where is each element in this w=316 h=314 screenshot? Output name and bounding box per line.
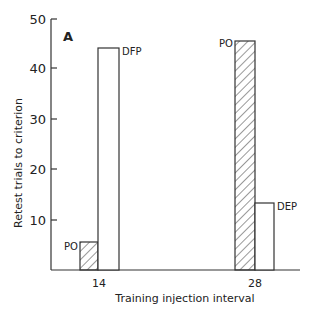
bar-po-28	[235, 41, 255, 270]
y-tick-label: 20	[29, 162, 46, 177]
bar-dfp-14	[98, 48, 119, 270]
y-ticks	[51, 19, 57, 220]
bar-po-14	[80, 242, 98, 270]
panel-label: A	[63, 29, 73, 44]
bar-label-po: PO	[64, 241, 78, 252]
y-tick-label: 50	[29, 12, 46, 27]
bar-label-dfp: DFP	[122, 46, 141, 57]
x-axis-label: Training injection interval	[114, 292, 254, 305]
x-tick-label: 28	[248, 277, 262, 290]
y-tick-label: 10	[29, 213, 46, 228]
bar-label-po: PO	[219, 38, 233, 49]
bar-dep-28	[255, 203, 274, 270]
y-tick-label: 30	[29, 112, 46, 127]
bar-chart: 50 40 30 20 10 Retest trials to criterio…	[0, 0, 316, 314]
bar-label-dep: DEP	[277, 201, 297, 212]
y-axis-label: Retest trials to criterion	[12, 98, 25, 228]
y-tick-label: 40	[29, 61, 46, 76]
x-tick-label: 14	[92, 277, 106, 290]
